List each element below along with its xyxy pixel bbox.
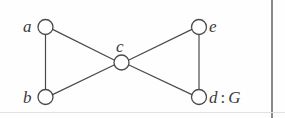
node-label-e: e — [209, 18, 217, 35]
right-vertical-rule — [271, 0, 273, 118]
node-e — [192, 20, 207, 35]
figure-canvas: a b c e d:G — [0, 0, 285, 118]
node-label-c: c — [116, 38, 124, 55]
edge-b-c — [53, 65, 115, 95]
colon-separator: : — [218, 88, 229, 107]
edge-a-c — [53, 29, 115, 60]
node-a — [38, 20, 53, 35]
graph-diagram — [0, 0, 285, 118]
node-label-a: a — [23, 18, 32, 35]
bottom-horizontal-rule — [0, 112, 285, 113]
node-label-b: b — [23, 89, 32, 106]
node-c — [114, 55, 129, 70]
node-b — [38, 90, 53, 105]
edge-c-d — [128, 65, 192, 95]
graph-name-label: G — [228, 88, 240, 107]
node-label-d: d — [209, 88, 218, 107]
edge-c-e — [128, 29, 192, 60]
graph-name-annotation: d:G — [209, 89, 241, 106]
node-d — [192, 90, 207, 105]
node-group — [38, 20, 207, 105]
